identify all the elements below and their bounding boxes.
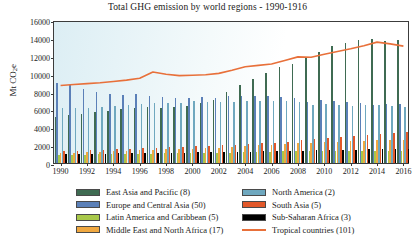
x-axis-tick-label: 2012 [343,167,359,176]
legend-swatch [76,201,100,208]
x-axis-tick-label: 1998 [158,167,174,176]
legend-line-marker [242,226,266,233]
legend-item[interactable]: East Asia and Pacific (8) [76,186,223,199]
y-axis-title-text: Mt CO [8,71,18,96]
legend-item-label: South Asia (5) [272,201,321,210]
y-axis-tick-label: 2000 [34,143,50,152]
y-axis-tick [51,165,54,166]
chart-title: Total GHG emission by world regions - 19… [0,2,415,12]
y-axis-tick-label: 8000 [34,89,50,98]
legend-item-label: Sub-Saharan Africa (3) [272,213,351,222]
y-axis-tick-label: 4000 [34,125,50,134]
legend-item[interactable]: Sub-Saharan Africa (3) [242,211,354,224]
legend-item-label: Tropical countries (101) [272,226,354,235]
legend-swatch [76,189,100,196]
legend-swatch [242,201,266,208]
legend-item[interactable]: South Asia (5) [242,199,354,212]
x-axis-tick-label: 2014 [369,167,385,176]
legend-item[interactable]: Middle East and North Africa (17) [76,224,223,237]
y-axis-title-subscript: 2 [11,68,18,71]
legend-item-label: East Asia and Pacific (8) [106,188,190,197]
x-axis-tick-label: 2008 [290,167,306,176]
y-axis-tick-label: 10000 [30,71,50,80]
x-axis-tick-label: 2002 [211,167,227,176]
y-axis-tick-label: 6000 [34,107,50,116]
legend-item-label: North America (2) [272,188,335,197]
tropical-countries-line [54,22,410,165]
legend-item[interactable]: North America (2) [242,186,354,199]
legend-item[interactable]: Europe and Central Asia (50) [76,199,223,212]
line-path [61,42,404,85]
x-axis-tick-label: 2004 [237,167,253,176]
legend-swatch [242,214,266,221]
x-axis-tick-label: 1994 [105,167,121,176]
x-axis-tick-label: 2010 [316,167,332,176]
y-axis-tick-label: 12000 [30,53,50,62]
x-axis-tick-label: 2000 [184,167,200,176]
legend-swatch [76,214,100,221]
legend-item-label: Europe and Central Asia (50) [106,201,206,210]
legend-swatch [76,226,100,233]
legend-item-label: Middle East and North Africa (17) [106,226,223,235]
legend-swatch [242,189,266,196]
x-axis-tick-label: 1996 [132,167,148,176]
x-axis-tick-label: 1992 [79,167,95,176]
legend-item[interactable]: Tropical countries (101) [242,224,354,237]
y-axis-title: Mt CO2e [8,50,18,110]
y-axis-title-suffix: e [8,64,18,68]
x-axis-tick-label: 2016 [395,167,411,176]
chart-legend: East Asia and Pacific (8)Europe and Cent… [0,186,415,240]
legend-item[interactable]: Latin America and Caribbean (5) [76,211,223,224]
legend-item-label: Latin America and Caribbean (5) [106,213,218,222]
plot-area: 0200040006000800010000120001400016000 19… [53,21,409,164]
x-axis-tick-label: 2006 [264,167,280,176]
chart-figure: Total GHG emission by world regions - 19… [0,0,415,240]
x-axis-tick-label: 1990 [53,167,69,176]
legend-column-right: North America (2)South Asia (5)Sub-Sahar… [242,186,354,236]
y-axis-tick-label: 16000 [30,18,50,27]
y-axis-tick-label: 0 [46,161,50,170]
y-axis-tick-label: 14000 [30,35,50,44]
legend-column-left: East Asia and Pacific (8)Europe and Cent… [76,186,223,236]
